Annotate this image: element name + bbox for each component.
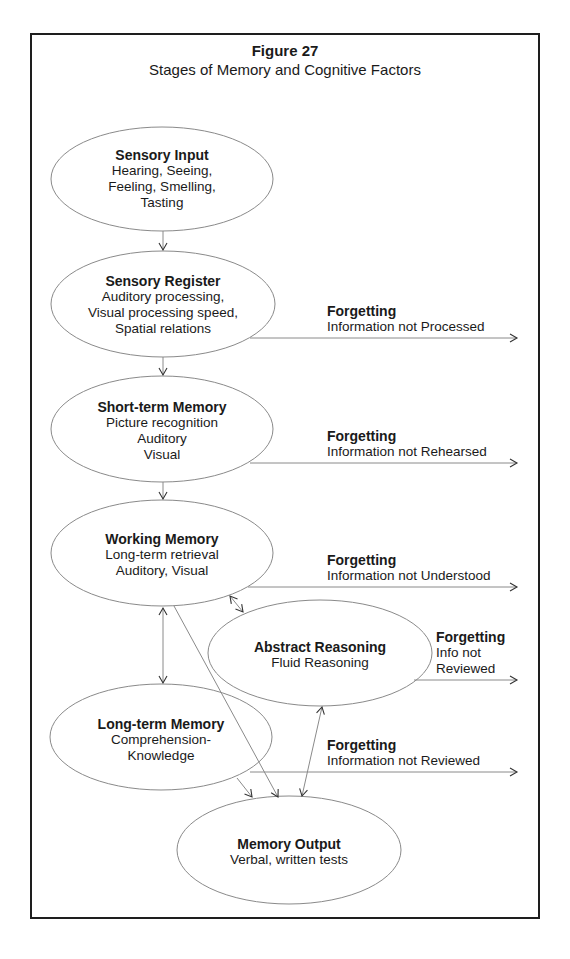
node-short-term-memory: Short-term Memory Picture recognition Au…	[62, 399, 262, 463]
arrow-abstract-output-bidirectional	[302, 707, 322, 796]
forgetting-label-reviewed: Forgetting Information not Reviewed	[327, 737, 480, 769]
forgetting-reason: Information not Processed	[327, 319, 485, 335]
node-line: Tasting	[62, 195, 262, 211]
arrow-ltm-to-output	[237, 778, 252, 797]
forgetting-reason: Information not Reviewed	[327, 753, 480, 769]
node-line: Auditory	[62, 431, 262, 447]
forgetting-label-rehearsed: Forgetting Information not Rehearsed	[327, 428, 487, 460]
node-line: Long-term retrieval	[62, 547, 262, 563]
arrow-wm-to-output	[174, 606, 278, 797]
node-line: Visual processing speed,	[58, 305, 268, 321]
node-working-memory: Working Memory Long-term retrieval Audit…	[62, 531, 262, 579]
forgetting-title: Forgetting	[327, 552, 491, 568]
forgetting-reason: Info not	[436, 645, 505, 661]
node-line: Visual	[62, 447, 262, 463]
node-long-term-memory: Long-term Memory Comprehension- Knowledg…	[61, 716, 261, 764]
node-title: Abstract Reasoning	[220, 639, 420, 655]
forgetting-title: Forgetting	[327, 428, 487, 444]
node-line: Knowledge	[61, 748, 261, 764]
node-line: Comprehension-	[61, 732, 261, 748]
arrow-wm-abstract-bidirectional	[230, 596, 243, 612]
forgetting-title: Forgetting	[327, 303, 485, 319]
node-title: Memory Output	[189, 836, 389, 852]
node-memory-output: Memory Output Verbal, written tests	[189, 836, 389, 868]
node-title: Working Memory	[62, 531, 262, 547]
node-abstract-reasoning: Abstract Reasoning Fluid Reasoning	[220, 639, 420, 671]
node-title: Sensory Register	[58, 273, 268, 289]
forgetting-reason: Information not Rehearsed	[327, 444, 487, 460]
forgetting-title: Forgetting	[436, 629, 505, 645]
node-line: Spatial relations	[58, 321, 268, 337]
node-line: Verbal, written tests	[189, 852, 389, 868]
node-line: Picture recognition	[62, 415, 262, 431]
node-sensory-register: Sensory Register Auditory processing, Vi…	[58, 273, 268, 337]
node-line: Auditory processing,	[58, 289, 268, 305]
forgetting-reason: Reviewed	[436, 661, 505, 677]
forgetting-label-understood: Forgetting Information not Understood	[327, 552, 491, 584]
node-title: Sensory Input	[62, 147, 262, 163]
node-title: Long-term Memory	[61, 716, 261, 732]
forgetting-label-info-reviewed: Forgetting Info not Reviewed	[436, 629, 505, 677]
node-line: Hearing, Seeing,	[62, 163, 262, 179]
forgetting-label-processed: Forgetting Information not Processed	[327, 303, 485, 335]
forgetting-reason: Information not Understood	[327, 568, 491, 584]
node-sensory-input: Sensory Input Hearing, Seeing, Feeling, …	[62, 147, 262, 211]
node-line: Feeling, Smelling,	[62, 179, 262, 195]
diagram-canvas	[0, 0, 570, 959]
node-line: Fluid Reasoning	[220, 655, 420, 671]
node-line: Auditory, Visual	[62, 563, 262, 579]
forgetting-title: Forgetting	[327, 737, 480, 753]
node-title: Short-term Memory	[62, 399, 262, 415]
